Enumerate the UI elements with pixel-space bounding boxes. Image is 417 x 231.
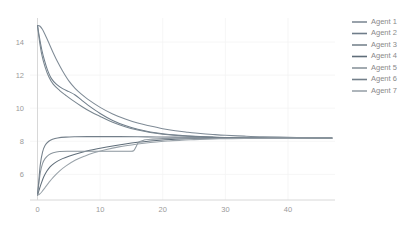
x-tick-label: 40 [284, 205, 292, 214]
legend-label-agent-5: Agent 5 [371, 63, 397, 72]
y-axis-tick-labels: 68101214 [16, 38, 24, 179]
line-chart-plot: 010203040 68101214 Agent 1Agent 2Agent 3… [0, 0, 417, 231]
gridlines-group [30, 18, 335, 200]
legend-label-agent-1: Agent 1 [371, 17, 397, 26]
x-tick-label: 10 [96, 205, 104, 214]
legend-label-agent-6: Agent 6 [371, 74, 397, 83]
x-tick-label: 30 [221, 205, 229, 214]
legend-label-agent-2: Agent 2 [371, 28, 397, 37]
x-tick-label: 20 [159, 205, 167, 214]
y-tick-label: 12 [16, 71, 24, 80]
x-axis-tick-labels: 010203040 [35, 205, 292, 214]
legend-label-agent-7: Agent 7 [371, 86, 397, 95]
x-tick-label: 0 [35, 205, 39, 214]
chart-figure: 010203040 68101214 Agent 1Agent 2Agent 3… [0, 0, 417, 231]
chart-legend: Agent 1Agent 2Agent 3Agent 4Agent 5Agent… [352, 17, 397, 95]
legend-label-agent-4: Agent 4 [371, 51, 397, 60]
y-tick-label: 8 [20, 137, 24, 146]
axes-group [30, 18, 335, 200]
y-tick-label: 14 [16, 38, 24, 47]
y-tick-label: 10 [16, 104, 24, 113]
legend-label-agent-3: Agent 3 [371, 40, 397, 49]
y-tick-label: 6 [20, 170, 24, 179]
